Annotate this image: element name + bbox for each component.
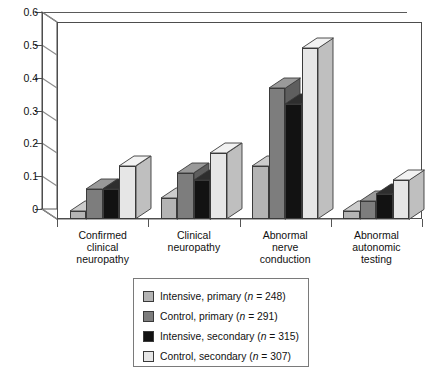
bar (252, 166, 269, 219)
x-axis-separator (57, 219, 58, 227)
bar-front-face (393, 180, 410, 219)
x-axis-category-label-line: Abnormal (328, 229, 424, 241)
chart-figure: 00.10.20.30.40.50.6 Confirmedclinicalneu… (0, 0, 436, 376)
y-axis-label: 0.6 (4, 7, 38, 18)
legend-swatch-control-secondary (143, 351, 154, 362)
bar (177, 173, 194, 219)
legend-item-intensive-secondary: Intensive, secondary (n = 315) (143, 326, 308, 346)
bar-front-face (70, 211, 87, 219)
y-axis-label: 0 (4, 204, 38, 215)
x-axis-category-label: Clinicalneuropathy (146, 229, 242, 253)
bar-front-face (252, 166, 269, 219)
bar (269, 88, 286, 219)
bar (285, 104, 302, 219)
bar-front-face (210, 153, 227, 219)
x-axis-category-label-line: nerve (237, 241, 333, 253)
y-axis-line (42, 12, 43, 209)
x-axis-category-label-line: Clinical (146, 229, 242, 241)
bar (194, 180, 211, 219)
legend-swatch-intensive-primary (143, 291, 154, 302)
bar (103, 189, 120, 219)
legend-label-intensive-secondary: Intensive, secondary (n = 315) (160, 331, 299, 342)
bar-front-face (161, 198, 178, 219)
x-axis-category-label: Abnormalnerveconduction (237, 229, 333, 266)
bar-front-face (103, 189, 120, 219)
legend-item-intensive-primary: Intensive, primary (n = 248) (143, 286, 308, 306)
x-axis-category-label-line: autonomic (328, 241, 424, 253)
legend-swatch-intensive-secondary (143, 331, 154, 342)
bar (393, 180, 410, 219)
plot-area: 00.10.20.30.40.50.6 Confirmedclinicalneu… (0, 0, 436, 268)
y-axis-label: 0.1 (4, 171, 38, 182)
bar (343, 211, 360, 219)
bar-front-face (376, 194, 393, 219)
bar (302, 48, 319, 219)
bar-front-face (269, 88, 286, 219)
x-axis-category-label-line: testing (328, 253, 424, 265)
bar-front-face (302, 48, 319, 219)
chart-legend: Intensive, primary (n = 248) Control, pr… (133, 278, 309, 367)
y-axis-label: 0.4 (4, 73, 38, 84)
y-axis-label: 0.5 (4, 40, 38, 51)
bar-front-face (285, 104, 302, 219)
x-axis-category-label-line: Confirmed (55, 229, 151, 241)
bar-front-face (177, 173, 194, 219)
x-axis-category-label-line: neuropathy (55, 253, 151, 265)
x-axis-category-label-line: conduction (237, 253, 333, 265)
x-axis-category-label-line: neuropathy (146, 241, 242, 253)
bar (210, 153, 227, 219)
legend-label-control-primary: Control, primary (n = 291) (160, 311, 278, 322)
bar-front-face (86, 189, 103, 219)
legend-item-control-secondary: Control, secondary (n = 307) (143, 346, 308, 366)
legend-item-control-primary: Control, primary (n = 291) (143, 306, 308, 326)
bar (86, 189, 103, 219)
bar-front-face (194, 180, 211, 219)
legend-label-control-secondary: Control, secondary (n = 307) (160, 351, 291, 362)
bar (376, 194, 393, 219)
bar (360, 201, 377, 219)
bar-front-face (119, 166, 136, 219)
bar (70, 211, 87, 219)
x-axis-category-label-line: clinical (55, 241, 151, 253)
legend-label-intensive-primary: Intensive, primary (n = 248) (160, 291, 286, 302)
x-axis-category-label-line: Abnormal (237, 229, 333, 241)
legend-swatch-control-primary (143, 311, 154, 322)
bar-front-face (343, 211, 360, 219)
x-axis-category-label: Abnormalautonomictesting (328, 229, 424, 266)
bar (161, 198, 178, 219)
bar-side-face (318, 38, 335, 221)
y-axis-label: 0.2 (4, 138, 38, 149)
bar-front-face (360, 201, 377, 219)
x-axis-category-label: Confirmedclinicalneuropathy (55, 229, 151, 266)
y-axis-label: 0.3 (4, 106, 38, 117)
bar (119, 166, 136, 219)
